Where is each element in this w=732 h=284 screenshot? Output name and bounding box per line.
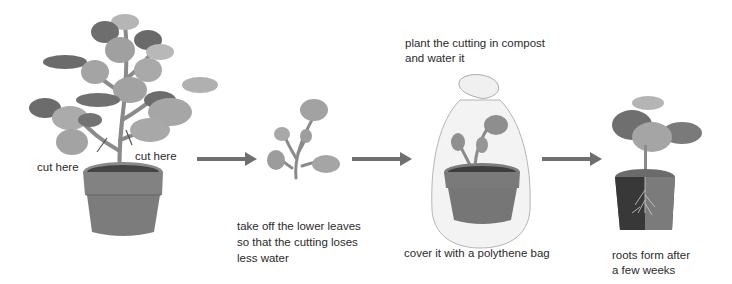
roots-caption: roots form after a few weeks xyxy=(612,248,690,278)
plant-caption: plant the cutting in compost and water i… xyxy=(405,36,545,66)
parent-plant-illustration xyxy=(0,0,244,284)
cut-here-label-right: cut here xyxy=(135,149,177,163)
arrow-icon xyxy=(542,152,602,166)
cutting-caption: take off the lower leaves so that the cu… xyxy=(237,218,361,266)
polythene-bag-illustration xyxy=(420,70,540,250)
cutting-illustration xyxy=(262,98,342,188)
cut-here-label-left: cut here xyxy=(37,160,79,174)
rooted-cutting-illustration xyxy=(610,95,720,235)
arrow-icon xyxy=(197,152,257,166)
arrow-icon xyxy=(352,152,412,166)
bag-caption: cover it with a polythene bag xyxy=(404,246,550,260)
